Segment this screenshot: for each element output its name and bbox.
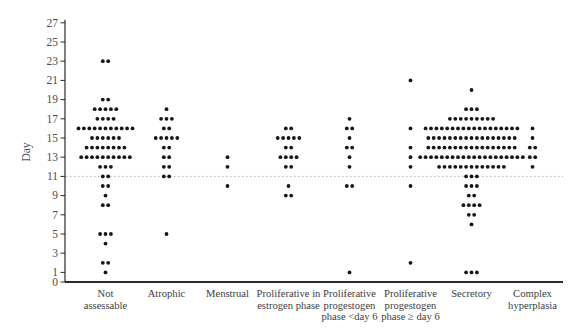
series-3-dots — [226, 155, 230, 188]
data-dot — [106, 117, 110, 121]
data-dot — [486, 165, 490, 169]
data-dot — [424, 126, 428, 130]
data-dot — [435, 126, 439, 130]
data-dot — [475, 184, 479, 188]
data-dot — [499, 155, 503, 159]
data-dot — [170, 136, 174, 140]
data-dot — [165, 232, 169, 236]
data-dot — [350, 146, 354, 150]
data-dot — [459, 146, 463, 150]
data-dot — [478, 155, 482, 159]
data-dot — [470, 175, 474, 179]
x-axis-category-label: Secretory — [451, 288, 492, 299]
x-axis-category-label: estrogen phase — [257, 300, 320, 311]
series-4-dots — [276, 126, 301, 197]
y-axis-tick-label: 23 — [47, 55, 59, 67]
data-dot — [409, 165, 413, 169]
data-dot — [486, 146, 490, 150]
data-dot — [467, 126, 471, 130]
data-dot — [101, 155, 105, 159]
data-dot — [464, 175, 468, 179]
data-dot — [98, 126, 102, 130]
data-dot — [104, 194, 108, 198]
data-dot — [93, 107, 97, 111]
data-dot — [470, 184, 474, 188]
data-dot — [104, 271, 108, 275]
data-dot — [162, 126, 166, 130]
data-dot — [513, 136, 517, 140]
data-dot — [502, 146, 506, 150]
data-dot — [464, 146, 468, 150]
data-dot — [426, 146, 430, 150]
data-dot — [106, 203, 110, 207]
data-dot — [531, 126, 535, 130]
data-dot — [101, 261, 105, 265]
data-dot — [435, 155, 439, 159]
data-dot — [90, 146, 94, 150]
data-dot — [424, 155, 428, 159]
data-dot — [464, 165, 468, 169]
data-dot — [464, 107, 468, 111]
data-dot — [167, 146, 171, 150]
data-dot — [489, 126, 493, 130]
data-dot — [531, 136, 535, 140]
data-dot — [467, 155, 471, 159]
data-dot — [470, 117, 474, 121]
y-axis-tick-label: 3 — [52, 247, 58, 259]
data-dot — [516, 155, 520, 159]
data-dot — [505, 155, 509, 159]
y-axis-tick-label: 7 — [52, 209, 58, 221]
data-dot — [276, 136, 280, 140]
data-dot — [459, 165, 463, 169]
data-dot — [478, 126, 482, 130]
data-dot — [491, 117, 495, 121]
y-axis-tick-label: 15 — [47, 132, 59, 144]
data-dot — [510, 155, 514, 159]
data-dot — [507, 146, 511, 150]
data-dot — [106, 136, 110, 140]
data-dot — [513, 146, 517, 150]
data-dot — [448, 165, 452, 169]
data-dot — [480, 146, 484, 150]
data-dot — [456, 126, 460, 130]
data-dot — [87, 126, 91, 130]
data-dot — [82, 126, 86, 130]
data-dot — [472, 126, 476, 130]
data-dot — [106, 155, 110, 159]
data-dot — [167, 165, 171, 169]
data-dot — [348, 136, 352, 140]
data-dot — [167, 155, 171, 159]
data-dot — [96, 136, 100, 140]
data-dot — [472, 194, 476, 198]
data-dot — [426, 136, 430, 140]
data-dot — [292, 136, 296, 140]
data-dot — [456, 155, 460, 159]
data-dot — [475, 271, 479, 275]
data-dot — [90, 155, 94, 159]
data-dot — [499, 126, 503, 130]
data-dot — [472, 155, 476, 159]
data-dot — [128, 155, 132, 159]
data-dot — [170, 117, 174, 121]
data-dot — [106, 261, 110, 265]
data-dot — [489, 155, 493, 159]
data-dot — [101, 203, 105, 207]
data-dot — [93, 126, 97, 130]
data-dot — [531, 165, 535, 169]
data-dot — [117, 136, 121, 140]
data-dot — [491, 136, 495, 140]
data-dot — [106, 175, 110, 179]
data-dot — [470, 165, 474, 169]
y-axis-tick-label: 25 — [47, 36, 59, 48]
data-dot — [521, 155, 525, 159]
data-dot — [112, 117, 116, 121]
data-dot — [162, 146, 166, 150]
data-dot — [409, 126, 413, 130]
data-dot — [96, 117, 100, 121]
data-dot — [162, 175, 166, 179]
x-axis-category-label: Proliferative — [323, 288, 376, 299]
data-dot — [101, 117, 105, 121]
data-dot — [117, 155, 121, 159]
data-dot — [470, 146, 474, 150]
data-dot — [101, 184, 105, 188]
